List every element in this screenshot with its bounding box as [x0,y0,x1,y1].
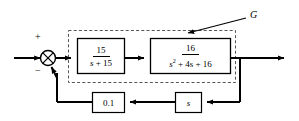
block-diagram: 15 s + 15 16 s2 + 4s + 16 0.1 s + − G [0,0,299,121]
plant-block-2-transfer-function: 16 s2 + 4s + 16 [150,38,231,74]
plant-block-2-denominator: s2 + 4s + 16 [165,55,216,69]
summing-junction-minus-sign: − [35,65,41,76]
derivative-block-label: s [175,92,202,113]
plant-block-1-transfer-function: 15 s + 15 [77,38,125,74]
feedback-into-junction-arrow [52,67,58,78]
g-group-label: G [250,9,257,20]
feedback-gain-block-label: 0.1 [92,92,125,113]
plant-block-1-denominator: s + 15 [86,57,116,68]
summing-junction-plus-sign: + [35,31,41,42]
plant-block-2-numerator: 16 [182,43,199,55]
plant-block-1-numerator: 15 [93,45,110,57]
plant-block-1-den-rest: + 15 [93,58,112,68]
plant-block-2-den-rest: + 4s + 16 [176,59,212,69]
